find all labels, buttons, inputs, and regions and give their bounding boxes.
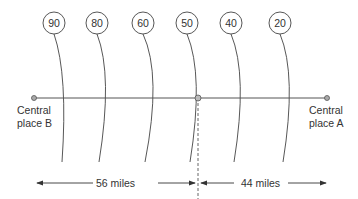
isoline-label-60: 60 [132,17,154,29]
place-b-label-line1: Central [17,104,52,117]
isoline-label-50: 50 [176,17,198,29]
isoline-label-80: 80 [86,17,108,29]
left-distance-label: 56 miles [93,177,138,189]
place-b-dot [32,96,37,101]
market-area-diagram: 90 80 60 50 40 20 Central place B Centra… [0,0,358,199]
place-a-label-line2: place A [309,117,343,130]
right-distance-label: 44 miles [238,177,283,189]
place-a-label: Central place A [309,104,343,130]
place-a-label-line1: Central [309,104,343,117]
place-b-label: Central place B [17,104,52,130]
diagram-canvas [0,0,358,199]
boundary-dot [195,95,201,101]
isoline-value-circles [43,12,291,34]
place-a-dot [325,96,330,101]
isoline-label-20: 20 [269,17,291,29]
isoline-label-90: 90 [43,17,65,29]
isoline-label-40: 40 [220,17,242,29]
place-b-label-line2: place B [17,117,52,130]
